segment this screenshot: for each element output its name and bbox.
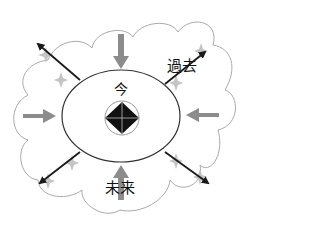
- label-past: 過去: [167, 59, 197, 74]
- label-future: 未来: [105, 181, 135, 196]
- label-present: 今: [114, 82, 128, 96]
- present-diamond-icon: [105, 101, 139, 135]
